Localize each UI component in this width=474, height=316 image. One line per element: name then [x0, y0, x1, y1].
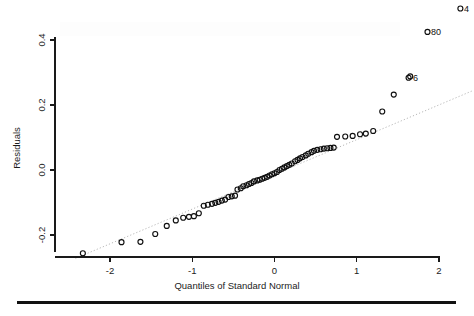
x-tick-label: -2: [106, 265, 114, 276]
data-point: [233, 193, 238, 198]
data-point: [213, 200, 218, 205]
data-point: [350, 133, 355, 138]
x-tick-label: 0: [272, 265, 277, 276]
y-tick-label: 0.2: [36, 98, 47, 111]
data-point: [186, 214, 191, 219]
data-point: [363, 131, 368, 136]
outlier-labels-group: 4806: [413, 4, 469, 83]
data-point: [164, 223, 169, 228]
data-point: [458, 6, 463, 11]
data-point: [331, 145, 336, 150]
data-point: [343, 134, 348, 139]
x-tick-label: -1: [188, 265, 196, 276]
x-axis-ticks: -2-1012: [106, 257, 442, 276]
y-tick-label: 0.4: [36, 33, 47, 46]
data-point: [80, 251, 85, 256]
data-point: [153, 232, 158, 237]
data-point: [371, 129, 376, 134]
data-point: [181, 215, 186, 220]
x-tick-label: 2: [436, 265, 441, 276]
y-tick-label: -0.2: [36, 227, 47, 243]
data-point: [191, 214, 196, 219]
data-point: [138, 239, 143, 244]
data-point: [380, 109, 385, 114]
data-point: [391, 92, 396, 97]
x-tick-label: 1: [354, 265, 359, 276]
outlier-label: 4: [464, 4, 469, 14]
y-tick-label: 0.0: [36, 163, 47, 176]
x-axis-title: Quantiles of Standard Normal: [174, 280, 299, 291]
data-point: [358, 132, 363, 137]
y-axis-title: Residuals: [11, 127, 22, 169]
data-point: [425, 29, 430, 34]
data-point: [119, 240, 124, 245]
y-axis-ticks: -0.20.00.20.4: [36, 33, 55, 243]
qq-plot-figure: -2-1012 -0.20.00.20.4 4806 Quantiles of …: [0, 0, 474, 316]
reference-line: [75, 91, 471, 258]
qq-plot-canvas: -2-1012 -0.20.00.20.4 4806 Quantiles of …: [0, 0, 474, 316]
data-point: [335, 134, 340, 139]
data-point: [173, 218, 178, 223]
data-point: [196, 211, 201, 216]
outlier-label: 6: [413, 73, 418, 83]
outlier-label: 80: [431, 27, 441, 37]
data-points-group: [80, 6, 463, 256]
bottom-divider-rule: [17, 301, 456, 304]
